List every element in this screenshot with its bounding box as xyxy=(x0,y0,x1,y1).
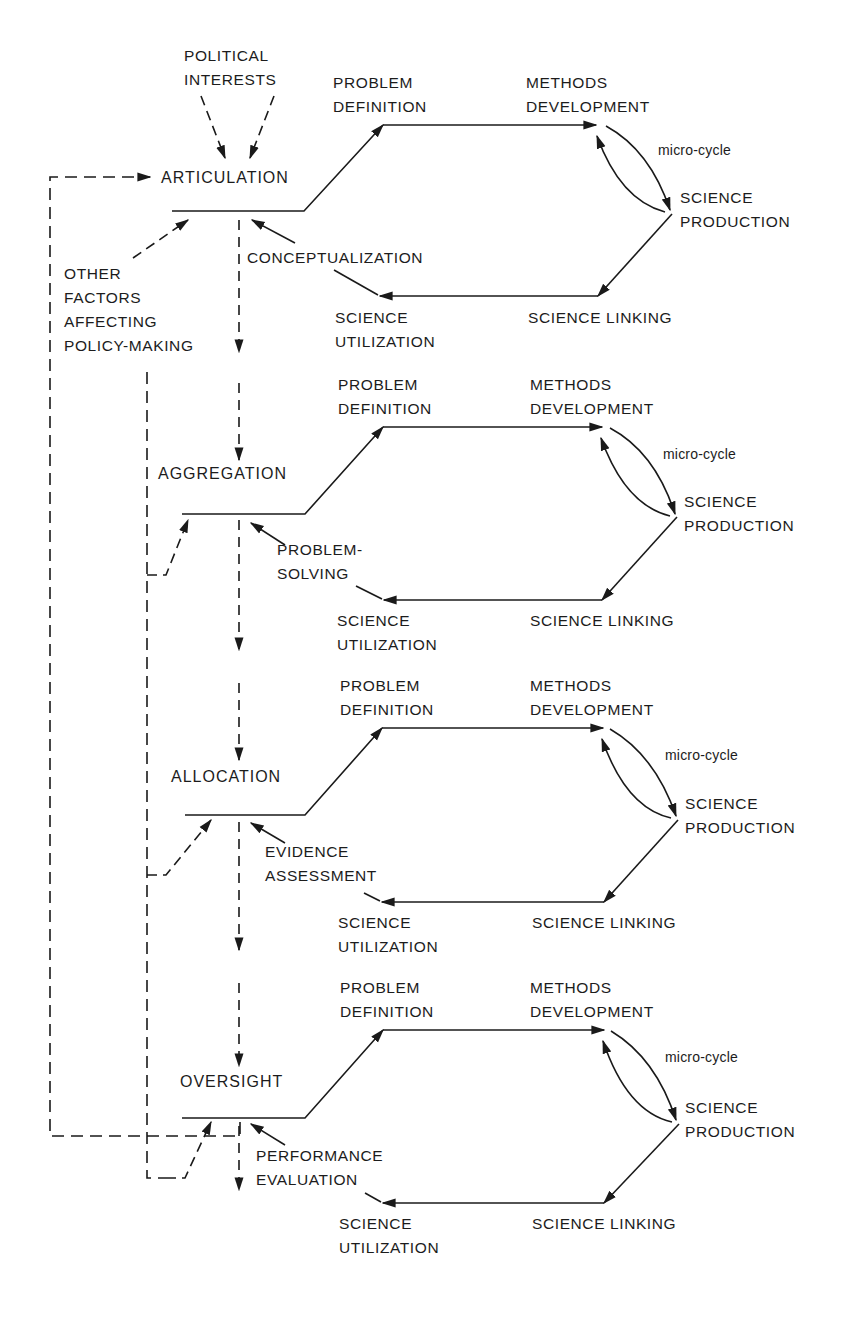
methods-development-1: METHODS DEVELOPMENT xyxy=(526,71,650,119)
other-factors-arrow xyxy=(133,220,188,258)
problem-definition-1: PROBLEM DEFINITION xyxy=(333,71,427,119)
feedback-problem-solving: PROBLEM- SOLVING xyxy=(277,538,363,586)
problem-definition-4: PROBLEM DEFINITION xyxy=(340,976,434,1024)
political-interests-arrow-left xyxy=(201,96,225,158)
science-production-1: SCIENCE PRODUCTION xyxy=(680,186,790,234)
science-linking-3: SCIENCE LINKING xyxy=(532,911,676,935)
science-production-3: SCIENCE PRODUCTION xyxy=(685,792,795,840)
cycle-allocation xyxy=(185,728,678,902)
cycle-aggregation xyxy=(182,427,677,600)
science-utilization-4: SCIENCE UTILIZATION xyxy=(339,1212,439,1260)
problem-definition-2: PROBLEM DEFINITION xyxy=(338,373,432,421)
stage-oversight: OVERSIGHT xyxy=(180,1070,283,1094)
problem-definition-3: PROBLEM DEFINITION xyxy=(340,674,434,722)
micro-cycle-1: micro-cycle xyxy=(658,138,731,162)
science-utilization-3: SCIENCE UTILIZATION xyxy=(338,911,438,959)
stage-allocation: ALLOCATION xyxy=(171,765,281,789)
political-interests-label: POLITICAL INTERESTS xyxy=(184,44,276,92)
science-linking-1: SCIENCE LINKING xyxy=(528,306,672,330)
stage-articulation: ARTICULATION xyxy=(161,166,289,190)
stage-aggregation: AGGREGATION xyxy=(158,462,287,486)
cycle-articulation xyxy=(172,125,672,296)
science-linking-2: SCIENCE LINKING xyxy=(530,609,674,633)
other-factors-label: OTHER FACTORS AFFECTING POLICY-MAKING xyxy=(64,262,194,358)
science-production-4: SCIENCE PRODUCTION xyxy=(685,1096,795,1144)
science-linking-4: SCIENCE LINKING xyxy=(532,1212,676,1236)
science-production-2: SCIENCE PRODUCTION xyxy=(684,490,794,538)
feedback-performance-evaluation: PERFORMANCE EVALUATION xyxy=(256,1144,383,1192)
methods-development-3: METHODS DEVELOPMENT xyxy=(530,674,654,722)
micro-cycle-2: micro-cycle xyxy=(663,442,736,466)
methods-development-4: METHODS DEVELOPMENT xyxy=(530,976,654,1024)
feedback-evidence-assessment: EVIDENCE ASSESSMENT xyxy=(265,840,377,888)
other-factors-feed-line xyxy=(147,372,166,1178)
feedback-conceptualization: CONCEPTUALIZATION xyxy=(247,246,423,270)
micro-cycle-4: micro-cycle xyxy=(665,1045,738,1069)
micro-cycle-3: micro-cycle xyxy=(665,743,738,767)
science-utilization-2: SCIENCE UTILIZATION xyxy=(337,609,437,657)
science-utilization-1: SCIENCE UTILIZATION xyxy=(335,306,435,354)
methods-development-2: METHODS DEVELOPMENT xyxy=(530,373,654,421)
political-interests-arrow-right xyxy=(250,96,274,158)
